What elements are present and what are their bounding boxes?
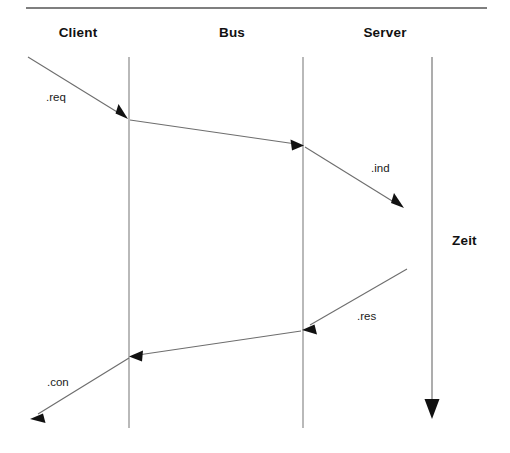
time-axis-arrowhead	[425, 399, 440, 419]
diagram-canvas	[0, 0, 510, 453]
message-label-req: .req	[46, 91, 66, 103]
message-arrowhead-req	[116, 104, 129, 119]
message-arrowhead-bus-to-server	[291, 140, 305, 151]
message-arrowhead-con	[30, 414, 46, 424]
lane-header-bus: Bus	[219, 25, 245, 40]
message-line-server-to-bus	[138, 331, 301, 355]
message-line-ind	[305, 147, 397, 204]
message-label-res: .res	[357, 310, 376, 322]
message-label-con: .con	[47, 376, 69, 388]
message-arrowhead-server-to-bus	[129, 351, 143, 362]
sequence-diagram: Client Bus Server Zeit .req .ind .res .c…	[0, 0, 510, 453]
lane-header-client: Client	[59, 25, 98, 40]
message-line-bus-to-server	[130, 120, 296, 144]
lane-header-server: Server	[363, 25, 406, 40]
message-arrowhead-res	[302, 325, 317, 335]
message-label-ind: .ind	[371, 162, 390, 174]
message-line-req	[28, 57, 122, 115]
time-axis-label: Zeit	[452, 233, 477, 248]
message-arrowhead-ind	[391, 193, 404, 208]
